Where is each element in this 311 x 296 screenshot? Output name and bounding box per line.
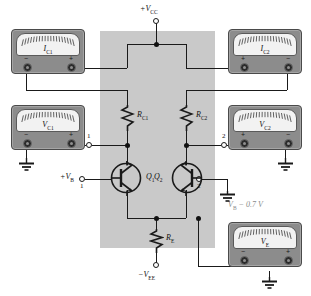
wire-q2-collector-stub [186, 159, 187, 165]
meter-vc2-face: VC2 [233, 109, 297, 132]
wire-rc1-top-stub [127, 90, 128, 106]
meter-ic1-right-sign: + [69, 55, 73, 62]
meter-vc2-right-sign: − [286, 131, 290, 138]
wire-collector1-to-terminal [92, 145, 127, 146]
meter-vc1-negative-terminal[interactable] [23, 139, 32, 148]
meter-ic1-left-sign: − [24, 55, 28, 62]
label-rc1: RC1 [137, 110, 148, 123]
wire-emitter2-down [186, 196, 187, 218]
meter-ve-face: VE [233, 226, 297, 249]
wire-top-right-down [186, 44, 187, 68]
label-terminal2-base: 2 [197, 182, 201, 190]
meter-ic1[interactable]: IC1 − + [11, 29, 85, 74]
meter-ic2-face: IC2 [233, 33, 297, 56]
wire-ic2-minus-across [186, 90, 287, 91]
terminal-collector2[interactable] [221, 142, 227, 148]
meter-ve-negative-terminal[interactable] [240, 256, 249, 265]
wire-q2-emitter-stub [186, 190, 187, 198]
meter-vc2[interactable]: VC2 + − [228, 105, 302, 150]
label-vcc: +VCC [140, 4, 158, 17]
wire-vc1-minus-to-ground [26, 150, 27, 160]
meter-ic2-right-sign: − [286, 55, 290, 62]
node-vcc [154, 42, 159, 47]
node-ve-sense [196, 216, 201, 221]
meter-vc2-positive-terminal[interactable] [240, 139, 249, 148]
label-rc2: RC2 [196, 110, 207, 123]
ground-symbol-vc2 [277, 158, 294, 172]
terminal-vcc[interactable] [153, 18, 159, 24]
meter-ic2-negative-terminal[interactable] [284, 63, 293, 72]
label-terminal2-collector: 2 [222, 132, 226, 140]
meter-vc1-right-sign: + [69, 131, 73, 138]
wire-q1-collector-stub [127, 159, 128, 165]
wire-ve-sense-down [198, 218, 199, 266]
wire-ic1-minus-across [26, 90, 127, 91]
wire-vcc-drop [156, 22, 157, 44]
meter-ic1-face: IC1 [16, 33, 80, 56]
terminal-collector1[interactable] [86, 142, 92, 148]
meter-ic2-left-sign: + [241, 55, 245, 62]
label-base1-voltage: +VB [60, 172, 74, 185]
label-vee: −VEE [138, 270, 155, 283]
label-re: RE [166, 233, 174, 246]
wire-collector2-to-terminal [186, 145, 221, 146]
wire-ve-sense-across [198, 266, 233, 267]
meter-ve-right-sign: + [286, 248, 290, 255]
meter-ic1-positive-terminal[interactable] [67, 63, 76, 72]
meter-ve-left-sign: − [241, 248, 245, 255]
terminal-vee[interactable] [153, 262, 159, 268]
meter-ic1-negative-terminal[interactable] [23, 63, 32, 72]
ground-symbol-vc1 [18, 158, 35, 172]
meter-ic2[interactable]: IC2 + − [228, 29, 302, 74]
node-collector1 [125, 143, 130, 148]
meter-vc1-face: VC1 [16, 109, 80, 132]
wire-top-left-down [127, 44, 128, 68]
ground-symbol-ve [261, 277, 278, 291]
wire-vc2-minus-to-ground [285, 150, 286, 160]
node-emitter-junction [154, 216, 159, 221]
wire-emitter1-down [127, 196, 128, 218]
meter-vc1-left-sign: − [24, 131, 28, 138]
meter-vc2-left-sign: + [241, 131, 245, 138]
meter-ve-positive-terminal[interactable] [284, 256, 293, 265]
circuit-diagram: +VCC −VEE RC1 RC2 RE Q1 Q2 +VB 1 2 1 2 V… [0, 0, 311, 296]
wire-ve-plus-to-ground [269, 271, 270, 279]
label-terminal1-base: 1 [80, 182, 84, 190]
meter-vc1[interactable]: VC1 − + [11, 105, 85, 150]
node-collector2 [184, 143, 189, 148]
resistor-rc2-symbol [179, 105, 194, 131]
label-q2: Q2 [154, 172, 163, 185]
wire-q1-emitter-stub [127, 190, 128, 198]
wire-rc2-top-stub [186, 90, 187, 106]
meter-vc2-negative-terminal[interactable] [284, 139, 293, 148]
meter-vc1-positive-terminal[interactable] [67, 139, 76, 148]
ground-symbol-base2 [219, 191, 236, 205]
resistor-re-symbol [149, 229, 164, 253]
resistor-rc1-symbol [120, 105, 135, 131]
meter-ic2-positive-terminal[interactable] [240, 63, 249, 72]
transistor-q1-symbol [105, 159, 145, 197]
label-terminal1-collector: 1 [87, 132, 91, 140]
meter-ve[interactable]: VE − + [228, 222, 302, 267]
transistor-q2-symbol [168, 159, 208, 197]
